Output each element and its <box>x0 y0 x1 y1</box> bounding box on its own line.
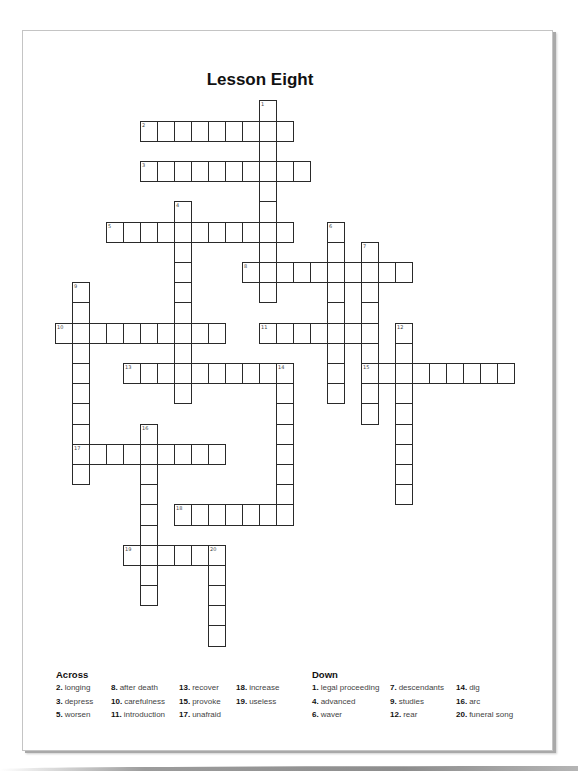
crossword-cell[interactable] <box>480 363 498 384</box>
crossword-cell[interactable] <box>208 625 226 647</box>
crossword-cell[interactable]: 4 <box>174 201 192 223</box>
crossword-cell[interactable] <box>242 161 260 182</box>
crossword-cell[interactable] <box>293 262 311 283</box>
crossword-cell[interactable] <box>395 363 413 384</box>
crossword-cell[interactable] <box>191 161 209 182</box>
crossword-cell[interactable] <box>157 222 175 243</box>
crossword-cell[interactable]: 16 <box>140 424 158 445</box>
crossword-cell[interactable] <box>259 363 277 384</box>
crossword-cell[interactable] <box>140 464 158 485</box>
crossword-cell[interactable] <box>242 363 260 384</box>
crossword-cell[interactable] <box>140 585 158 606</box>
crossword-cell[interactable] <box>293 323 311 344</box>
crossword-cell[interactable] <box>157 323 175 344</box>
crossword-cell[interactable]: 3 <box>140 161 158 182</box>
crossword-cell[interactable] <box>174 121 192 142</box>
crossword-cell[interactable] <box>174 444 192 465</box>
crossword-cell[interactable]: 15 <box>361 363 379 384</box>
crossword-cell[interactable] <box>157 161 175 182</box>
crossword-cell[interactable] <box>361 302 379 324</box>
crossword-cell[interactable] <box>395 464 413 485</box>
crossword-cell[interactable] <box>395 444 413 465</box>
crossword-cell[interactable] <box>174 302 192 324</box>
crossword-cell[interactable] <box>174 222 192 243</box>
crossword-cell[interactable] <box>395 484 413 505</box>
crossword-cell[interactable] <box>259 504 277 526</box>
crossword-cell[interactable] <box>225 121 243 142</box>
crossword-cell[interactable] <box>140 545 158 566</box>
crossword-cell[interactable]: 1 <box>259 100 277 122</box>
crossword-cell[interactable] <box>259 222 277 243</box>
crossword-cell[interactable] <box>344 323 362 344</box>
crossword-cell[interactable] <box>259 121 277 142</box>
crossword-cell[interactable] <box>208 605 226 626</box>
crossword-cell[interactable] <box>123 222 141 243</box>
crossword-cell[interactable] <box>327 242 345 263</box>
crossword-cell[interactable]: 13 <box>123 363 141 384</box>
crossword-cell[interactable] <box>463 363 481 384</box>
crossword-cell[interactable] <box>174 383 192 404</box>
crossword-cell[interactable] <box>395 383 413 404</box>
crossword-cell[interactable] <box>191 504 209 526</box>
crossword-cell[interactable]: 10 <box>55 323 73 344</box>
crossword-cell[interactable] <box>225 504 243 526</box>
crossword-cell[interactable] <box>208 222 226 243</box>
crossword-cell[interactable] <box>72 464 90 485</box>
crossword-cell[interactable]: 8 <box>242 262 260 283</box>
crossword-cell[interactable] <box>72 383 90 404</box>
crossword-cell[interactable] <box>191 363 209 384</box>
crossword-cell[interactable] <box>276 161 294 182</box>
crossword-cell[interactable] <box>72 323 90 344</box>
crossword-cell[interactable] <box>140 444 158 465</box>
crossword-cell[interactable] <box>89 444 107 465</box>
crossword-cell[interactable] <box>174 545 192 566</box>
crossword-cell[interactable] <box>89 323 107 344</box>
crossword-cell[interactable] <box>327 323 345 344</box>
crossword-cell[interactable] <box>395 343 413 364</box>
crossword-cell[interactable] <box>191 121 209 142</box>
crossword-cell[interactable] <box>174 161 192 182</box>
crossword-cell[interactable] <box>208 363 226 384</box>
crossword-cell[interactable] <box>259 141 277 162</box>
crossword-cell[interactable] <box>361 323 379 344</box>
crossword-cell[interactable] <box>208 565 226 586</box>
crossword-cell[interactable] <box>191 222 209 243</box>
crossword-cell[interactable] <box>72 302 90 324</box>
crossword-cell[interactable] <box>327 343 345 364</box>
crossword-cell[interactable] <box>276 484 294 505</box>
crossword-cell[interactable] <box>361 262 379 283</box>
crossword-cell[interactable] <box>259 282 277 303</box>
crossword-cell[interactable] <box>242 504 260 526</box>
crossword-cell[interactable] <box>259 201 277 223</box>
crossword-cell[interactable] <box>276 444 294 465</box>
crossword-cell[interactable] <box>106 323 124 344</box>
crossword-cell[interactable] <box>225 222 243 243</box>
crossword-cell[interactable] <box>259 161 277 182</box>
crossword-cell[interactable] <box>327 282 345 303</box>
crossword-cell[interactable] <box>327 383 345 404</box>
crossword-cell[interactable] <box>429 363 447 384</box>
crossword-cell[interactable] <box>72 424 90 445</box>
crossword-cell[interactable] <box>225 161 243 182</box>
crossword-cell[interactable]: 17 <box>72 444 90 465</box>
crossword-cell[interactable]: 5 <box>106 222 124 243</box>
crossword-cell[interactable] <box>293 161 311 182</box>
crossword-cell[interactable] <box>276 464 294 485</box>
crossword-cell[interactable]: 7 <box>361 242 379 263</box>
crossword-cell[interactable] <box>174 282 192 303</box>
crossword-cell[interactable] <box>242 121 260 142</box>
crossword-cell[interactable]: 2 <box>140 121 158 142</box>
crossword-cell[interactable] <box>140 525 158 546</box>
crossword-cell[interactable] <box>310 323 328 344</box>
crossword-cell[interactable] <box>157 121 175 142</box>
crossword-cell[interactable]: 20 <box>208 545 226 566</box>
crossword-cell[interactable] <box>72 363 90 384</box>
crossword-cell[interactable] <box>412 363 430 384</box>
crossword-cell[interactable] <box>276 504 294 526</box>
crossword-cell[interactable] <box>327 302 345 324</box>
crossword-cell[interactable] <box>361 383 379 404</box>
crossword-cell[interactable] <box>208 161 226 182</box>
crossword-cell[interactable] <box>259 242 277 263</box>
crossword-cell[interactable] <box>208 121 226 142</box>
crossword-cell[interactable] <box>174 343 192 364</box>
